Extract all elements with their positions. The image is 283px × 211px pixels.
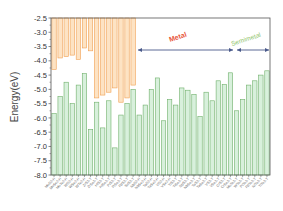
green-bar [70,104,74,175]
energy-bar-chart: -2.5-3.0-3.5-4.0-4.5-5.0-5.5-6.0-6.5-7.0… [0,0,283,211]
x-axis: MoS2-HMoSe2-HMoTe2-HWS2-HWSe2-HWTe2-HZrS… [44,175,270,190]
green-bar [52,114,56,175]
orange-bar [94,18,98,98]
green-bar [82,74,86,175]
green-bar [161,121,165,175]
orange-bar [101,18,105,95]
metal-arrow-left-head [138,48,142,52]
green-bar [228,73,232,175]
y-tick-label: -6.5 [34,128,47,137]
green-bar [137,115,141,175]
green-bar [64,82,68,175]
green-bar [265,71,269,175]
green-bar [222,85,226,175]
green-bar [180,88,184,175]
y-tick-label: -4.5 [34,71,47,80]
green-bar [131,89,135,175]
y-tick-label: -7.0 [34,142,47,151]
green-bar [94,102,98,175]
green-bar [174,105,178,175]
green-bar [143,105,147,175]
orange-bar [82,18,86,48]
orange-bar [58,18,62,58]
y-tick-label: -4.0 [34,56,47,65]
orange-bar [88,18,92,51]
orange-bar [125,18,129,98]
green-bar [107,101,111,175]
orange-bar [119,18,123,102]
green-bar [119,115,123,175]
y-tick-label: -8.0 [34,171,47,180]
green-bar [234,111,238,175]
semimetal-range-annotation: Semimetal [230,31,269,52]
orange-bar [107,18,111,92]
green-bar [101,128,105,175]
orange-bar [76,18,80,59]
green-bar [58,97,62,176]
green-bar [155,78,159,175]
orange-bar [70,18,74,55]
orange-bar [52,18,56,69]
y-tick-label: -3.0 [34,28,47,37]
green-bar [240,99,244,175]
green-bar [149,89,153,175]
semimetal-arrow-right-head [265,48,269,52]
y-tick-label: -6.0 [34,114,47,123]
green-bar [204,92,208,175]
metal-arrow-right-head [229,48,233,52]
orange-bar [131,18,135,85]
y-axis-title: Energy(eV) [9,72,20,123]
green-bar [88,129,92,175]
green-bar [210,101,214,175]
green-bar [259,75,263,175]
y-tick-label: -5.5 [34,99,47,108]
green-bar [186,90,190,175]
green-bar [198,116,202,175]
green-bar [113,148,117,175]
green-bar [247,85,251,175]
y-tick-label: -2.5 [34,14,47,23]
y-tick-label: -3.5 [34,42,47,51]
green-bar [167,99,171,175]
y-tick-label: -5.0 [34,85,47,94]
y-tick-label: -7.5 [34,156,47,165]
metal-label: Metal [168,31,187,43]
semimetal-label: Semimetal [230,31,262,47]
orange-bar [64,18,68,57]
green-bar [125,104,129,175]
green-bar [76,85,80,175]
metal-range-annotation: Metal [138,31,233,52]
orange-bar [113,18,117,88]
semimetal-arrow-left-head [237,48,241,52]
green-bar [253,81,257,175]
y-axis: -2.5-3.0-3.5-4.0-4.5-5.0-5.5-6.0-6.5-7.0… [34,14,51,180]
green-bar [192,95,196,175]
green-bar [216,81,220,175]
